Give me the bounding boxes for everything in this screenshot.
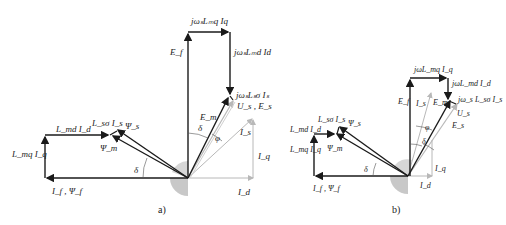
label-Ef-b: E_f (398, 98, 409, 106)
label-LsaIs-b: L_sσ I_s (318, 116, 345, 124)
label-Es-b: E_s (452, 122, 464, 130)
label-delta-top-a: δ (198, 124, 202, 133)
label-delta-left-b: δ (364, 166, 368, 174)
diagram-a (45, 32, 253, 196)
label-Psi-m-b: Ψ_m (327, 145, 342, 153)
label-delta-top-b: δ (422, 138, 426, 146)
label-phi-b: φ (425, 124, 429, 132)
jwLsaIs-a (230, 96, 233, 100)
label-Id-a: I_d (238, 188, 250, 197)
label-LmqIq-b: L_mq I_q (290, 146, 321, 154)
Lsa-Is-a (110, 131, 117, 135)
diagram-b (314, 78, 457, 194)
label-If-Psif-a: I_f , Ψ_f (52, 187, 82, 196)
label-jwLmdId-a: jωₛLₘd Id (234, 48, 271, 57)
label-delta-left-a: δ (134, 166, 138, 175)
label-Iq-a: I_q (258, 152, 270, 161)
Psi-s-a (118, 130, 188, 178)
label-LsaIs-a: L_sσ I_s (92, 119, 123, 128)
label-jwLmqIq-b: jωL_mq I_q (414, 66, 453, 74)
label-Ef-a: E_f (170, 48, 183, 57)
origin-sector-b (390, 176, 408, 194)
jwLsaIs-b (449, 101, 456, 104)
Psi-m-a (113, 136, 188, 178)
label-Is-a: I_s (240, 128, 251, 137)
label-LmqIq-a: L_mq I_q (12, 150, 47, 159)
label-jwLsaIs-a: jωₛLₛσ Iₛ (236, 91, 269, 100)
origin-sector-a (170, 178, 188, 196)
label-jwLsaIs-b: jω_s L_sσ I_s (458, 96, 502, 104)
caption-b: b) (392, 204, 400, 215)
label-Em-b: E_m (433, 99, 448, 107)
label-Em-a: E_m (200, 113, 217, 122)
label-Psi-m-a: Ψ_m (100, 144, 117, 153)
Psi-m-b (337, 134, 408, 176)
label-LmdId-b: L_md I_d (290, 126, 321, 134)
Lsa-Is-b (337, 127, 339, 134)
label-Iq-b: I_q (435, 165, 446, 173)
label-Psi-s-a: Ψ_s (125, 122, 139, 131)
label-jwLmqIq-a: jωₛLₘq Iq (191, 17, 228, 26)
label-phi-a: φ (215, 134, 220, 143)
label-Id-b: I_d (420, 182, 431, 190)
label-Is-b: I_s (416, 100, 426, 108)
label-Us-b: U_s (457, 110, 470, 118)
label-LmdId-a: L_md I_d (56, 125, 91, 134)
caption-a: a) (158, 204, 166, 215)
label-Us-Es-a: U_s , E_s (237, 102, 272, 111)
label-If-Psif-b: I_f , Ψ_f (313, 185, 340, 193)
label-Psi-s-b: Ψ_s (348, 120, 361, 128)
label-jwLmdId-b: jωL_md I_d (452, 80, 491, 88)
